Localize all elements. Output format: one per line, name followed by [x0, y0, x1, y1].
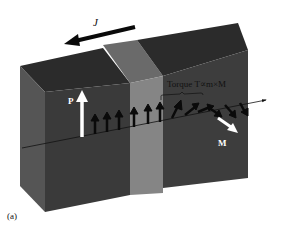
spin-transfer-torque-diagram: J P Torque T∝m×M M (a) [0, 0, 283, 235]
polarizer-label: P [68, 96, 74, 106]
torque-label: Torque T∝m×M [167, 79, 226, 89]
magnetization-label: M [218, 138, 227, 148]
spacer-front-face [130, 76, 163, 195]
fixed-layer-front-face [45, 83, 130, 212]
current-label: J [93, 16, 99, 28]
panel-label: (a) [7, 211, 17, 221]
